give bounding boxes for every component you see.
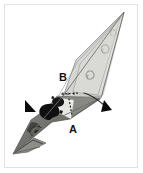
specimen-label-a: A — [69, 124, 77, 135]
specimen-illustration — [0, 0, 143, 173]
figure-panel: B A — [0, 0, 143, 173]
arrowhead-right-marker — [101, 100, 112, 112]
specimen-label-b: B — [59, 72, 67, 83]
arrowhead-left-marker — [25, 100, 36, 112]
specimen-upper-ridge — [73, 14, 123, 95]
